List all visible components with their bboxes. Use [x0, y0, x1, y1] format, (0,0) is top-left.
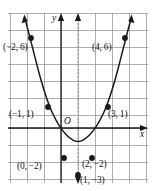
point-label-0-neg2: (0, −2) [17, 162, 42, 172]
point-label-3-1: (3, 1) [108, 110, 127, 120]
point-marker [28, 35, 34, 41]
point-marker [122, 35, 128, 41]
point-marker [61, 155, 67, 161]
point-marker [45, 104, 51, 110]
figure-container: (−2, 6) (4, 6) (−1, 1) (3, 1) (0, −2) (2… [0, 0, 152, 191]
point-label-neg2-6: (−2, 6) [3, 43, 28, 53]
point-label-4-6: (4, 6) [92, 43, 111, 53]
point-label-neg1-1: (−1, 1) [9, 110, 34, 120]
point-label-1-neg3: (1, −3) [80, 176, 105, 186]
origin-label: O [64, 117, 71, 127]
point-label-2-neg2: (2, −2) [82, 160, 107, 170]
x-axis-label: x [140, 130, 144, 140]
y-axis-label: y [52, 14, 56, 24]
